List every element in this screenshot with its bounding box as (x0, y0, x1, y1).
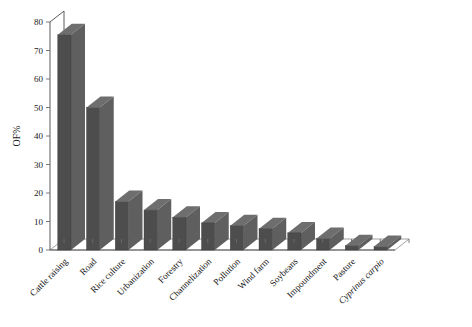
y-tick-label-10: 10 (34, 217, 44, 227)
x-category-label-11: Pasture (331, 256, 357, 282)
bar-1 (58, 24, 85, 250)
bar-side-face (71, 24, 85, 250)
bar-front-face (58, 35, 71, 250)
y-axis-top-connector (50, 11, 64, 22)
x-category-label-2: Road (78, 256, 99, 277)
y-tick-label-30: 30 (34, 160, 44, 170)
x-category-label-8: Wind farm (236, 256, 271, 291)
y-axis-title: OF% (11, 125, 22, 146)
chart-canvas: 01020304050607080OF%Cattle raisingRoadRi… (0, 0, 472, 327)
bar-front-face (173, 217, 186, 250)
y-tick-label-40: 40 (34, 131, 44, 141)
y-tick-label-50: 50 (34, 103, 44, 113)
bar-side-face (100, 97, 114, 251)
bar-front-face (144, 210, 157, 250)
bar-3 (115, 191, 142, 250)
y-tick-label-0: 0 (39, 245, 44, 255)
x-category-label-1: Cattle raising (28, 256, 70, 298)
y-tick-label-70: 70 (34, 46, 44, 56)
bar-front-face (345, 246, 358, 250)
y-tick-label-20: 20 (34, 188, 44, 198)
y-tick-label-80: 80 (34, 17, 44, 27)
y-tick-label-60: 60 (34, 74, 44, 84)
bar-front-face (202, 223, 215, 250)
bar-front-face (374, 247, 387, 250)
bar-front-face (230, 226, 243, 250)
bar-front-face (87, 108, 100, 251)
bar-chart: 01020304050607080OF%Cattle raisingRoadRi… (0, 0, 472, 327)
bar-2 (87, 97, 114, 251)
